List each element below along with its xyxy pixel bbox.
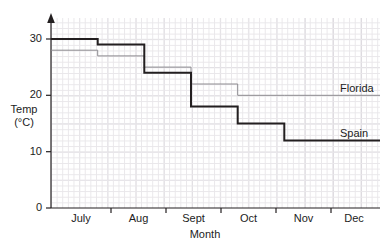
y-tick-label-10: 10 xyxy=(18,145,42,157)
x-category-label-aug: Aug xyxy=(111,212,166,224)
chart-figure: 30 20 10 0 Temp (°C) July Aug Sept Oct N… xyxy=(0,0,380,243)
series-label-spain: Spain xyxy=(340,127,368,139)
y-axis xyxy=(47,13,55,208)
x-axis-title: Month xyxy=(175,228,235,241)
chart-canvas xyxy=(0,0,380,243)
x-category-label-oct: Oct xyxy=(221,212,276,224)
y-tick-label-0: 0 xyxy=(18,201,42,213)
y-axis-title-line1: Temp xyxy=(2,103,46,116)
y-axis-title: Temp (°C) xyxy=(2,103,46,129)
x-category-label-dec: Dec xyxy=(331,212,377,224)
series-line-spain xyxy=(51,39,380,140)
y-axis-title-line2: (°C) xyxy=(2,116,46,129)
x-category-label-nov: Nov xyxy=(276,212,331,224)
x-category-label-july: July xyxy=(56,212,106,224)
y-tick-label-20: 20 xyxy=(18,88,42,100)
y-axis-ticks xyxy=(46,39,51,208)
series-line-florida xyxy=(51,50,380,95)
series-label-florida: Florida xyxy=(340,82,374,94)
x-category-label-sept: Sept xyxy=(166,212,221,224)
y-tick-label-30: 30 xyxy=(18,32,42,44)
